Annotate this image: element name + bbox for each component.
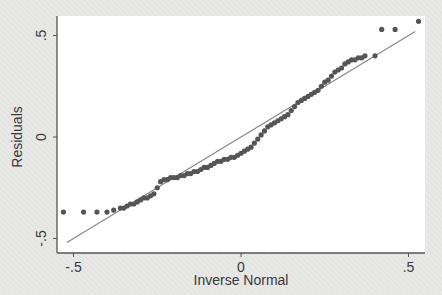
- y-axis-ticks: -.50.5: [33, 29, 57, 246]
- data-point: [339, 65, 344, 70]
- data-point: [285, 112, 290, 117]
- y-tick-label: -.5: [33, 230, 49, 247]
- data-point: [393, 27, 398, 32]
- data-point: [315, 88, 320, 93]
- data-point: [289, 108, 294, 113]
- x-axis-title: Inverse Normal: [194, 272, 289, 288]
- qq-plot-chart: -.50.5 -.50.5 Inverse Normal Residuals: [0, 0, 442, 295]
- data-point: [329, 74, 334, 79]
- y-tick-label: 0: [33, 133, 49, 141]
- y-tick-label: .5: [33, 29, 49, 41]
- data-point: [104, 210, 109, 215]
- data-point: [111, 207, 116, 212]
- data-point: [248, 145, 253, 150]
- data-point: [81, 210, 86, 215]
- data-point: [259, 132, 264, 137]
- data-point: [362, 53, 367, 58]
- data-point: [255, 136, 260, 141]
- data-point: [61, 210, 66, 215]
- data-point: [416, 19, 421, 24]
- data-point: [292, 104, 297, 109]
- data-point: [94, 210, 99, 215]
- data-point: [326, 78, 331, 83]
- data-point: [252, 140, 257, 145]
- y-axis-title: Residuals: [9, 106, 25, 167]
- data-point: [151, 191, 156, 196]
- chart-canvas: -.50.5 -.50.5 Inverse Normal Residuals: [0, 0, 442, 295]
- data-point: [379, 27, 384, 32]
- x-tick-label: .5: [403, 259, 415, 275]
- data-point: [155, 185, 160, 190]
- data-point: [262, 128, 267, 133]
- data-point: [372, 53, 377, 58]
- plot-area: [57, 16, 425, 253]
- data-point: [319, 84, 324, 89]
- x-tick-label: -.5: [65, 259, 82, 275]
